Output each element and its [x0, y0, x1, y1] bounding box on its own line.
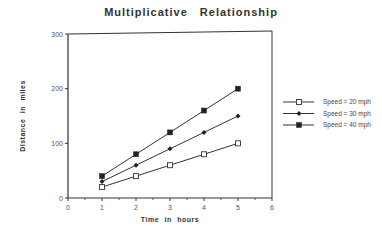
legend-marker — [297, 111, 302, 116]
legend-label: Speed = 40 mph — [323, 121, 371, 129]
data-point-marker — [236, 86, 241, 91]
legend-label: Speed = 20 mph — [323, 98, 371, 106]
x-tick-label: 1 — [100, 204, 104, 211]
data-point-marker — [202, 130, 207, 135]
x-axis-title: Time in hours — [141, 216, 199, 223]
y-tick-label: 100 — [51, 140, 63, 147]
data-point-marker — [134, 163, 139, 168]
x-tick-label: 2 — [134, 204, 138, 211]
data-point-marker — [236, 114, 241, 119]
data-point-marker — [168, 163, 173, 168]
x-tick-label: 5 — [236, 204, 240, 211]
y-tick-label: 0 — [59, 195, 63, 202]
data-point-marker — [202, 152, 207, 157]
data-point-marker — [100, 185, 105, 190]
data-point-marker — [134, 174, 139, 179]
data-point-marker — [236, 141, 241, 146]
line-chart: 01234560100200300Time in hoursDistance i… — [0, 0, 382, 235]
data-point-marker — [168, 146, 173, 151]
x-tick-label: 6 — [270, 204, 274, 211]
y-tick-label: 300 — [51, 31, 63, 38]
legend-label: Speed = 30 mph — [323, 110, 371, 118]
data-point-marker — [202, 108, 207, 113]
x-tick-label: 3 — [168, 204, 172, 211]
data-point-marker — [134, 152, 139, 157]
y-tick-label: 200 — [51, 85, 63, 92]
x-tick-label: 4 — [202, 204, 206, 211]
data-point-marker — [168, 130, 173, 135]
plot-border-top — [68, 31, 272, 34]
y-axis-title: Distance in miles — [19, 80, 26, 152]
legend-marker — [297, 100, 302, 105]
x-tick-label: 0 — [66, 204, 70, 211]
legend-marker — [297, 123, 302, 128]
data-point-marker — [100, 174, 105, 179]
data-point-marker — [100, 179, 105, 184]
